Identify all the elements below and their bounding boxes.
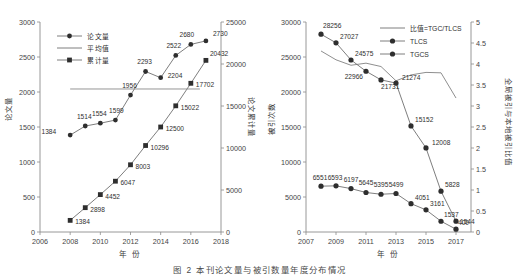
left-chart-svg: 0500100015002000250030000500010000150002… [0, 0, 258, 260]
tgcs-data-point [348, 57, 353, 62]
tlcs-data-point [408, 201, 413, 206]
legend-item-label-0[interactable]: 论文量 [87, 32, 110, 41]
tgcs-data-label: 28256 [323, 22, 342, 29]
papers-data-point [204, 39, 209, 44]
left-y2-tick-label: 5000 [226, 186, 242, 195]
tgcs-data-point [438, 189, 443, 194]
right-chart-svg: 05000100001500020000250003000000.511.522… [258, 0, 520, 260]
papers-data-point [128, 93, 133, 98]
tgcs-data-point [408, 123, 413, 128]
papers-data-label: 2204 [168, 72, 183, 79]
legend-item-label-0[interactable]: 比值=TGC/TLCS [410, 24, 462, 33]
papers-data-label: 2730 [213, 30, 228, 37]
tgcs-data-point [423, 145, 428, 150]
cumulative-data-label: 20432 [210, 50, 229, 57]
cumulative-data-label: 15022 [181, 104, 200, 111]
tgcs-data-point [333, 40, 338, 45]
cumulative-data-point [68, 218, 73, 223]
right-y2-tick-label: 2.5 [476, 123, 486, 132]
tlcs-data-label: 5395 [374, 181, 389, 188]
left-x-tick-label: 2014 [153, 237, 169, 246]
papers-data-label: 1956 [122, 82, 137, 89]
papers-data-label: 1554 [92, 110, 107, 117]
right-y2-tick-label: 2 [476, 144, 480, 153]
left-y-tick-label: 1000 [19, 158, 35, 167]
right-y2-tick-label: 4 [476, 60, 480, 69]
tlcs-data-label: 4051 [415, 194, 430, 201]
left-x-tick-label: 2006 [32, 237, 48, 246]
tlcs-data-label: 400 [458, 219, 469, 226]
papers-data-point [68, 133, 73, 138]
cumulative-data-label: 10296 [151, 144, 170, 151]
cumulative-data-point [158, 125, 163, 130]
tgcs-data-label: 27027 [340, 33, 359, 40]
papers-data-label: 1599 [109, 107, 124, 114]
tlcs-data-label: 5499 [389, 181, 404, 188]
left-y2-axis-title: 论文累计量 [247, 97, 256, 137]
right-y2-tick-label: 4.5 [476, 39, 486, 48]
papers-data-point [188, 42, 193, 47]
papers-data-point [158, 75, 163, 80]
left-x-tick-label: 2018 [213, 237, 229, 246]
legend-item-label-1[interactable]: TLCS [410, 38, 428, 45]
cumulative-series-line [70, 60, 206, 220]
right-y-axis-title: 被引次数 [267, 103, 276, 135]
right-y2-tick-label: 1 [476, 186, 480, 195]
right-y2-tick-label: 3.5 [476, 81, 486, 90]
right-y2-tick-label: 0 [476, 228, 480, 237]
right-y-tick-label: 0 [297, 228, 301, 237]
tgcs-data-label: 12008 [432, 139, 451, 146]
cumulative-data-point [173, 103, 178, 108]
figure-root: 0500100015002000250030000500010000150002… [0, 0, 520, 277]
cumulative-data-label: 12500 [166, 125, 185, 132]
cumulative-data-point [98, 192, 103, 197]
legend-item-label-2[interactable]: TGCS [410, 51, 429, 58]
left-y2-tick-label: 20000 [226, 60, 246, 69]
cumulative-data-point [83, 205, 88, 210]
right-y-tick-label: 15000 [281, 123, 301, 132]
papers-data-label: 1384 [41, 128, 56, 135]
tlcs-data-label: 5645 [359, 179, 374, 186]
right-y2-tick-label: 5 [476, 18, 480, 27]
tlcs-data-point [363, 190, 368, 195]
left-y-tick-label: 3000 [19, 18, 35, 27]
tlcs-data-label: 6593 [328, 174, 343, 181]
left-x-tick-label: 2008 [62, 237, 78, 246]
left-y-tick-label: 2000 [19, 88, 35, 97]
cumulative-data-point [113, 179, 118, 184]
right-x-tick-label: 2015 [418, 237, 434, 246]
left-y-tick-label: 2500 [19, 53, 35, 62]
right-x-tick-label: 2017 [448, 237, 464, 246]
papers-data-label: 2680 [179, 31, 194, 38]
right-y-tick-label: 20000 [281, 88, 301, 97]
tgcs-data-label: 15152 [415, 116, 434, 123]
tlcs-data-point [423, 207, 428, 212]
papers-data-label: 2293 [137, 58, 152, 65]
tgcs-data-label: 24575 [355, 50, 374, 57]
tgcs-series-line [321, 34, 456, 221]
papers-data-label: 2522 [166, 42, 181, 49]
legend-item-label-2[interactable]: 累计量 [87, 56, 110, 65]
tlcs-data-point [393, 191, 398, 196]
papers-series-line [70, 41, 206, 135]
legend-item-label-1[interactable]: 平均值 [87, 44, 110, 53]
right-x-tick-label: 2009 [328, 237, 344, 246]
figure-caption: 图 2 本刊论文量与被引数量年度分布情况 [0, 262, 520, 277]
right-x-tick-label: 2013 [388, 237, 404, 246]
tlcs-series-line [321, 186, 456, 229]
left-y2-tick-label: 15000 [226, 102, 246, 111]
tgcs-data-point [393, 80, 398, 85]
legend-circle-marker [390, 51, 395, 56]
papers-data-point [113, 118, 118, 123]
right-y-tick-label: 5000 [285, 193, 301, 202]
left-y2-tick-label: 25000 [226, 18, 246, 27]
left-y-tick-label: 1500 [19, 123, 35, 132]
tlcs-data-point [333, 183, 338, 188]
left-x-tick-label: 2012 [123, 237, 139, 246]
tlcs-data-label: 1537 [444, 211, 459, 218]
legend-circle-marker [67, 34, 72, 39]
papers-data-point [173, 53, 178, 58]
papers-data-point [83, 124, 88, 129]
tgcs-data-label: 21274 [402, 74, 421, 81]
right-chart-panel: 05000100001500020000250003000000.511.522… [258, 0, 520, 260]
